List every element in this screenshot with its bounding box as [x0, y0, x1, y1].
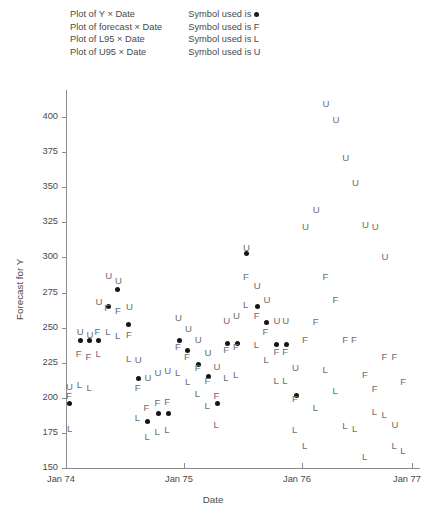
y-axis-tick — [62, 187, 67, 188]
data-point-f: F — [362, 370, 368, 380]
data-point-u: U — [105, 271, 112, 281]
data-point-u: U — [66, 382, 73, 392]
data-point-f: F — [254, 311, 260, 321]
y-axis-tick — [62, 328, 67, 329]
data-point-u: U — [313, 205, 320, 215]
data-point-u: U — [115, 276, 122, 286]
data-point-u: U — [243, 243, 250, 253]
y-axis-line — [66, 90, 67, 469]
legend-symbol-dot-row: Symbol used is — [188, 8, 260, 21]
data-point-u: U — [362, 220, 369, 230]
forecast-scatter-chart: Plot of Y × Date Plot of forecast × Date… — [0, 0, 426, 515]
data-point-observed — [96, 338, 101, 343]
y-axis-tick-label: 375 — [24, 146, 58, 156]
y-axis-tick-label: 225 — [24, 357, 58, 367]
data-point-f: F — [135, 383, 141, 393]
data-point-l: L — [323, 365, 328, 375]
data-point-f: F — [205, 376, 211, 386]
data-point-f: F — [323, 272, 329, 282]
data-point-observed — [115, 287, 120, 292]
data-point-f: F — [95, 327, 101, 337]
data-point-observed — [136, 376, 141, 381]
legend-symbol-f: Symbol used is F — [188, 21, 260, 34]
data-point-l: L — [135, 413, 140, 423]
data-point-l: L — [214, 420, 219, 430]
data-point-u: U — [391, 420, 398, 430]
data-point-f: F — [332, 295, 338, 305]
y-axis-tick-label: 250 — [24, 322, 58, 332]
data-point-f: F — [144, 403, 150, 413]
legend-symbol-l: Symbol used is L — [188, 33, 260, 46]
data-point-f: F — [66, 391, 72, 401]
data-point-u: U — [302, 222, 309, 232]
legend-plot-l95: Plot of L95 × Date — [70, 33, 162, 46]
x-axis-tick-label: Jan 77 — [393, 474, 421, 484]
legend-symbol-dot-label: Symbol used is — [188, 9, 251, 19]
y-axis-tick-label: 400 — [24, 111, 58, 121]
x-axis-tick — [184, 463, 185, 469]
data-point-l: L — [313, 403, 318, 413]
x-axis-tick-label: Jan 76 — [283, 474, 311, 484]
data-point-f: F — [164, 397, 170, 407]
legend-plot-y: Plot of Y × Date — [70, 8, 162, 21]
filled-circle-icon — [254, 12, 259, 17]
data-point-l: L — [126, 354, 131, 364]
data-point-u: U — [372, 222, 379, 232]
data-point-observed — [126, 322, 131, 327]
data-point-f: F — [273, 347, 279, 357]
data-point-l: L — [254, 340, 259, 350]
data-point-l: L — [175, 368, 180, 378]
data-point-observed — [78, 338, 83, 343]
data-point-observed — [67, 401, 72, 406]
data-point-u: U — [292, 363, 299, 373]
data-point-l: L — [154, 427, 159, 437]
data-point-u: U — [185, 324, 192, 334]
chart-legend: Plot of Y × Date Plot of forecast × Date… — [70, 8, 261, 58]
data-point-u: U — [332, 115, 339, 125]
y-axis-tick — [62, 222, 67, 223]
data-point-l: L — [391, 441, 396, 451]
data-point-u: U — [195, 335, 202, 345]
data-point-u: U — [214, 362, 221, 372]
data-point-observed — [264, 320, 269, 325]
data-point-u: U — [145, 373, 152, 383]
data-point-f: F — [126, 330, 132, 340]
data-point-f: F — [391, 352, 397, 362]
data-point-u: U — [264, 295, 271, 305]
data-point-u: U — [205, 348, 212, 358]
data-point-f: F — [372, 384, 378, 394]
data-point-l: L — [164, 425, 169, 435]
data-point-l: L — [205, 401, 210, 411]
data-point-l: L — [195, 389, 200, 399]
data-point-l: L — [264, 355, 269, 365]
data-point-l: L — [243, 300, 248, 310]
legend-symbol-u: Symbol used is U — [188, 46, 260, 59]
y-axis-title: Forecast for Y — [14, 259, 25, 320]
data-point-l: L — [332, 386, 337, 396]
y-axis-tick-label: 150 — [24, 462, 58, 472]
data-point-f: F — [313, 317, 319, 327]
data-point-f: F — [382, 352, 388, 362]
data-point-f: F — [351, 335, 357, 345]
legend-plot-forecast: Plot of forecast × Date — [70, 21, 162, 34]
x-axis-title: Date — [0, 494, 426, 505]
x-axis-tick — [66, 463, 67, 469]
data-point-l: L — [87, 383, 92, 393]
data-point-u: U — [382, 252, 389, 262]
legend-plots-column: Plot of Y × Date Plot of forecast × Date… — [70, 8, 162, 58]
data-point-u: U — [342, 153, 349, 163]
x-axis-tick — [412, 463, 413, 469]
data-point-l: L — [362, 452, 367, 462]
y-axis-tick-label: 325 — [24, 216, 58, 226]
data-point-f: F — [76, 349, 82, 359]
data-point-l: L — [145, 432, 150, 442]
data-point-l: L — [233, 370, 238, 380]
x-axis-tick-label: Jan 75 — [165, 474, 193, 484]
data-point-l: L — [115, 331, 120, 341]
data-point-f: F — [263, 327, 269, 337]
data-point-l: L — [400, 446, 405, 456]
data-point-l: L — [302, 441, 307, 451]
data-point-l: L — [292, 425, 297, 435]
data-point-u: U — [175, 313, 182, 323]
data-point-f: F — [115, 306, 121, 316]
